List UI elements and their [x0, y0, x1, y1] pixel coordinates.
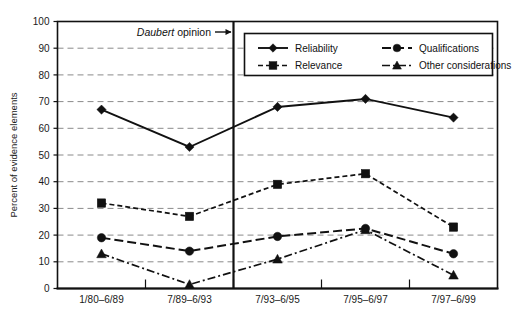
- data-point-marker-square: [273, 180, 281, 188]
- y-axis-tick-label: 80: [38, 70, 50, 81]
- data-point-marker-square: [185, 212, 193, 220]
- y-axis-tick-label: 100: [33, 16, 50, 27]
- chart-figure: 0102030405060708090100 1/80–6/897/89–6/9…: [0, 0, 519, 326]
- legend-label: Other considerations: [419, 60, 511, 71]
- legend-label: Qualifications: [419, 43, 479, 54]
- chart-legend[interactable]: ReliabilityRelevanceQualificationsOther …: [245, 34, 512, 76]
- data-point-marker-square: [449, 223, 457, 231]
- y-axis-tick-label: 30: [38, 203, 50, 214]
- x-axis-category-label: 7/93–6/95: [255, 294, 300, 305]
- y-axis-tick-label: 40: [38, 176, 50, 187]
- y-axis-tick-label: 70: [38, 96, 50, 107]
- legend-item-qualifications[interactable]: Qualifications: [382, 43, 479, 54]
- x-axis-category-label: 7/95–6/97: [343, 294, 388, 305]
- legend-label: Reliability: [295, 43, 338, 54]
- data-point-marker-circle: [97, 234, 105, 242]
- data-point-marker-square: [97, 199, 105, 207]
- data-point-marker-square: [361, 169, 369, 177]
- y-axis-tick-label: 10: [38, 256, 50, 267]
- y-axis-title-text: Percent of evidence elements: [8, 92, 19, 217]
- daubert-annotation-text: Daubert opinion: [137, 26, 211, 38]
- y-axis-tick-label: 50: [38, 150, 50, 161]
- data-point-marker-circle: [393, 44, 401, 52]
- y-axis-title: Percent of evidence elements: [8, 92, 19, 217]
- x-axis-category-label: 7/89–6/93: [167, 294, 212, 305]
- daubert-label-rest: opinion: [174, 26, 211, 38]
- y-axis-tick-label: 60: [38, 123, 50, 134]
- y-axis-tick-label: 90: [38, 43, 50, 54]
- data-point-marker-circle: [449, 250, 457, 258]
- data-point-marker-circle: [185, 247, 193, 255]
- line-chart: 0102030405060708090100 1/80–6/897/89–6/9…: [0, 0, 519, 326]
- x-axis-category-label: 1/80–6/89: [79, 294, 124, 305]
- y-axis-tick-label: 20: [38, 230, 50, 241]
- legend-item-relevance[interactable]: Relevance: [258, 60, 343, 71]
- y-axis-tick-label: 0: [44, 283, 50, 294]
- data-point-marker-circle: [273, 232, 281, 240]
- x-axis-category-label: 7/97–6/99: [431, 294, 476, 305]
- daubert-label-emphasis: Daubert: [137, 26, 175, 38]
- legend-label: Relevance: [295, 60, 343, 71]
- data-point-marker-square: [269, 62, 277, 70]
